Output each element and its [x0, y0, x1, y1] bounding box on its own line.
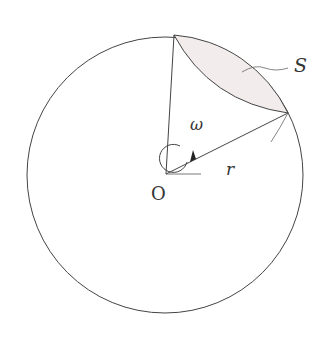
label-r: r — [226, 159, 235, 179]
label-omega: ω — [190, 115, 203, 134]
label-s: S — [294, 54, 307, 76]
angle-arc — [159, 144, 187, 172]
angle-arrow-icon — [190, 150, 196, 162]
label-o: O — [151, 183, 166, 204]
circle-diagram: S ω r O — [0, 0, 324, 339]
radius-line-top — [166, 35, 174, 174]
shaded-region-s — [174, 35, 288, 113]
